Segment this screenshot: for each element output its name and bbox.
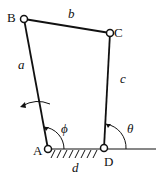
label-link-a: a xyxy=(18,57,25,72)
four-bar-linkage-diagram: B C A D b a c d ϕ θ xyxy=(0,0,168,182)
angle-theta-arc xyxy=(106,124,126,149)
joint-b xyxy=(21,16,28,23)
joint-c xyxy=(107,30,114,37)
diagram-canvas: B C A D b a c d ϕ θ xyxy=(0,0,168,182)
rotation-arrowhead-icon xyxy=(20,102,26,108)
label-angle-phi: ϕ xyxy=(61,121,68,136)
label-link-c: c xyxy=(120,71,126,86)
label-link-d: d xyxy=(72,160,79,175)
label-b-joint: B xyxy=(7,10,16,25)
link-b xyxy=(24,19,110,33)
joint-d xyxy=(101,145,108,152)
ground-hatching xyxy=(51,150,97,158)
label-c-joint: C xyxy=(114,25,123,40)
rotation-arc xyxy=(22,101,50,106)
label-link-b: b xyxy=(68,6,75,21)
label-a-joint: A xyxy=(33,143,43,158)
label-d-joint: D xyxy=(104,154,113,169)
angle-theta-arrowhead-icon xyxy=(106,124,111,128)
link-a xyxy=(24,19,48,149)
joint-a xyxy=(45,146,52,153)
label-angle-theta: θ xyxy=(127,121,134,136)
link-c xyxy=(104,33,110,148)
